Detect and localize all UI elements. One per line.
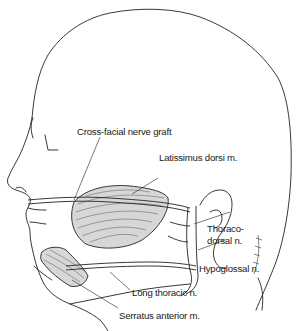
latissimus-dorsi-muscle	[72, 186, 169, 249]
label-latissimus-dorsi: Latissimus dorsi m.	[159, 152, 237, 163]
eye	[45, 135, 58, 150]
label-hypoglossal: Hypoglossal n.	[199, 263, 259, 274]
serratus-anterior-muscle	[41, 247, 88, 286]
anatomical-illustration: Cross-facial nerve graft Latissimus dors…	[0, 0, 298, 331]
hypoglossal-nerve	[186, 206, 198, 294]
label-serratus-anterior: Serratus anterior m.	[119, 310, 200, 321]
head-drawing	[0, 0, 298, 331]
thoracodorsal-nerve	[180, 208, 192, 296]
label-thoracodorsal-line1: Thoraco-	[207, 223, 244, 234]
label-long-thoracic: Long thoracic n.	[132, 287, 197, 298]
label-thoracodorsal-line2: dorsal n.	[207, 235, 242, 246]
label-cross-facial-nerve-graft: Cross-facial nerve graft	[77, 126, 171, 137]
long-thoracic-nerve	[66, 262, 196, 266]
